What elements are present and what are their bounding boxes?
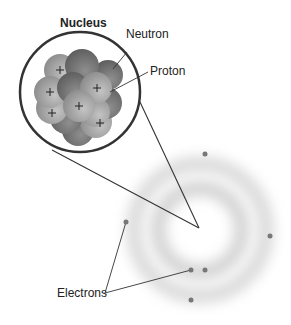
electrons-label: Electrons xyxy=(57,286,107,300)
atom-diagram xyxy=(0,0,291,325)
electron xyxy=(189,268,194,273)
electron xyxy=(203,268,208,273)
nucleus-title: Nucleus xyxy=(60,16,107,30)
neutron-label: Neutron xyxy=(126,27,169,41)
proton-label: Proton xyxy=(150,64,185,78)
electron xyxy=(203,152,208,157)
electron xyxy=(124,220,129,225)
electron-cloud xyxy=(134,164,266,296)
electron xyxy=(268,234,273,239)
electron xyxy=(189,298,194,303)
